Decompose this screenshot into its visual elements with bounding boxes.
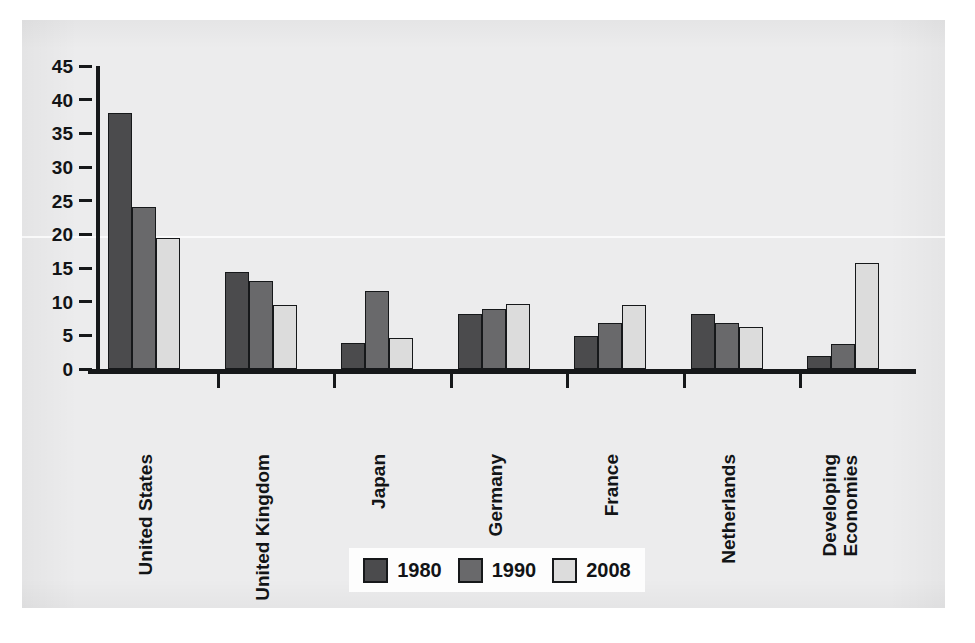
bar-1980-united-states [108,113,132,369]
bar-2008-developing-economies [855,263,879,369]
group-separator-tick [450,374,453,388]
y-tick-mark [79,368,92,371]
y-tick-mark [79,65,92,68]
y-tick-mark [79,267,92,270]
legend-swatch-1980 [363,558,388,583]
bar-group [799,66,916,369]
group-separator-tick [333,374,336,388]
bar-1980-developing-economies [807,356,831,369]
bar-2008-united-kingdom [273,305,297,369]
group-separator-tick [217,374,220,388]
y-tick-mark [79,300,92,303]
group-separator-tick [566,374,569,388]
y-tick-mark [79,132,92,135]
bar-1980-japan [341,343,365,369]
category-label: United Kingdom [253,454,273,601]
bar-group [100,66,217,369]
y-tick-mark [79,199,92,202]
y-tick-label: 30 [52,158,73,177]
x-axis-baseline [88,369,916,374]
bar-group [217,66,334,369]
bar-2008-france [622,305,646,369]
y-tick-mark [79,166,92,169]
y-tick-mark [79,98,92,101]
bar-1990-japan [365,291,389,369]
bar-1990-netherlands [715,323,739,369]
bar-group [566,66,683,369]
legend-label-1980: 1980 [397,560,442,580]
bar-2008-netherlands [739,327,763,369]
category-label: Germany [486,454,506,536]
bar-1980-france [574,336,598,369]
chart-legend: 1980 1990 2008 [349,548,645,592]
y-tick-label: 15 [52,259,73,278]
bar-1990-developing-economies [831,344,855,369]
bar-1990-united-states [132,207,156,369]
bar-2008-united-states [156,238,180,369]
bar-1980-netherlands [691,314,715,369]
y-tick-label: 45 [52,57,73,76]
plot-area: 051015202530354045 United StatesUnited K… [96,66,916,369]
bar-1990-germany [482,309,506,369]
y-tick-label: 35 [52,124,73,143]
category-label: Japan [369,454,389,509]
bar-groups [100,66,916,369]
category-label: DevelopingEconomies [819,454,861,556]
category-label: France [602,454,622,516]
bar-group [683,66,800,369]
legend-item[interactable]: 1990 [458,558,537,583]
group-separator-tick [799,374,802,388]
y-tick-label: 40 [52,90,73,109]
bar-2008-japan [389,338,413,369]
bar-1980-united-kingdom [225,272,249,369]
y-tick-mark [79,233,92,236]
category-label: United States [136,454,156,575]
bar-2008-germany [506,304,530,369]
legend-item[interactable]: 2008 [552,558,631,583]
y-tick-label: 25 [52,191,73,210]
y-tick-label: 5 [62,326,73,345]
legend-label-2008: 2008 [586,560,631,580]
category-label-line: Developing [819,454,840,556]
category-label: Netherlands [719,454,739,564]
chart-figure: 051015202530354045 United StatesUnited K… [0,0,975,643]
bar-group [450,66,567,369]
bar-1990-united-kingdom [249,281,273,369]
legend-swatch-1990 [458,558,483,583]
legend-swatch-2008 [552,558,577,583]
group-separator-tick [683,374,686,388]
legend-item[interactable]: 1980 [363,558,442,583]
y-tick-label: 10 [52,292,73,311]
bar-1980-germany [458,314,482,369]
category-label-line: Economies [840,454,861,556]
legend-label-1990: 1990 [492,560,537,580]
bar-1990-france [598,323,622,369]
y-tick-label: 0 [62,360,73,379]
y-tick-label: 20 [52,225,73,244]
bar-group [333,66,450,369]
y-tick-mark [79,334,92,337]
